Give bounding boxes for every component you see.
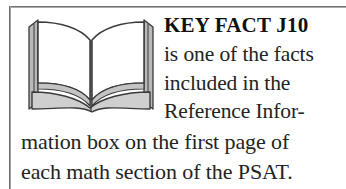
key-fact-title: KEY FACT J10 bbox=[164, 11, 346, 40]
body-line-5: each math section of the PSAT. bbox=[21, 157, 346, 187]
body-line-1: is one of the facts bbox=[164, 40, 346, 69]
open-book-icon bbox=[26, 16, 156, 114]
callout-top-rule bbox=[9, 6, 346, 8]
body-line-4: mation box on the first page of bbox=[21, 127, 346, 157]
body-line-2: included in the bbox=[164, 69, 346, 98]
body-line-3: Reference Infor- bbox=[164, 97, 346, 126]
key-fact-callout: KEY FACT J10 is one of the facts include… bbox=[0, 0, 346, 189]
callout-left-rule bbox=[9, 6, 11, 189]
callout-indented-text: KEY FACT J10 is one of the facts include… bbox=[164, 11, 346, 126]
callout-full-width-text: mation box on the first page of each mat… bbox=[21, 127, 346, 187]
